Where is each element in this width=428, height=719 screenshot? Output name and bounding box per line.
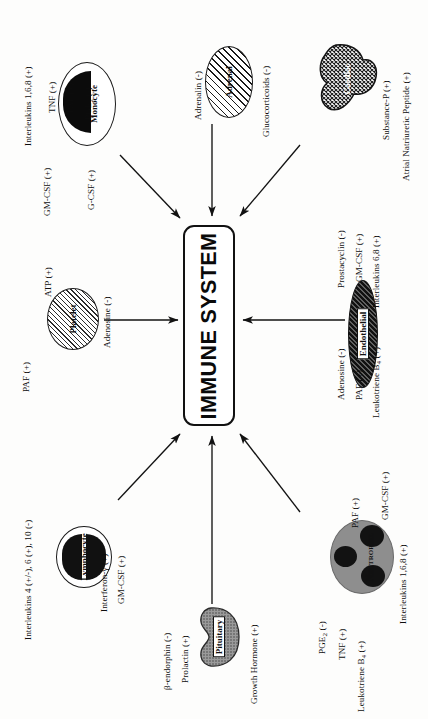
neutrophil-label-tnf: TNF (+) — [338, 629, 347, 660]
endothelial-label-adenosine: Adenosine (-) — [337, 348, 346, 400]
neutrophil-label-ltb4: Leukotriene B4 (+) — [357, 641, 368, 712]
adrenal-figure: Adrenal — [205, 46, 253, 118]
adrenal-name: Adrenal — [224, 66, 234, 97]
neutrophil-name: Neutrophil — [365, 533, 375, 582]
cardiac-figure: Cardiac — [316, 42, 378, 116]
pituitary-figure: Pituitary — [197, 606, 241, 668]
platelet-label-adenosine: Adenosine (-) — [103, 296, 112, 348]
arrow-neutrophil — [240, 434, 300, 512]
arrow-cardiac — [240, 145, 300, 216]
endothelial-label-prostacyclin: Prostacyclin (-) — [337, 230, 346, 288]
lymphocyte-label-gmcsf: GM-CSF (+) — [117, 556, 126, 604]
cardiac-name: Cardiac — [342, 64, 352, 95]
pituitary-label-prolactin: Prolactin (+) — [181, 635, 190, 683]
neutrophil-figure: Neutrophil — [330, 520, 394, 594]
monocyte-label-tnf: TNF (+) — [48, 82, 57, 113]
monocyte-label-paf: PAF (+) — [66, 83, 75, 113]
platelet-label-paf: PAF (+) — [22, 362, 31, 392]
arrow-monocyte — [120, 155, 180, 218]
neutrophil-lobe-2 — [334, 546, 357, 567]
endothelial-label-ltb4: Leukotriene B4 (+) — [372, 347, 383, 418]
monocyte-label-interleukins: Interleukins 1,6,8 (+) — [24, 66, 33, 146]
monocyte-label-gcsf: G-CSF (+) — [87, 170, 96, 210]
neutrophil-label-paf: PAF (+) — [351, 498, 360, 528]
lymphocyte-label-interferon: Interferon-γ (+) — [100, 554, 109, 612]
neutrophil-label-interleukins: Interleukins 1,6,8 (+) — [399, 544, 408, 624]
platelet-label-atp: ATP (+) — [44, 267, 53, 297]
pituitary-name: Pituitary — [213, 617, 225, 658]
pituitary-label-growth-hormone: Growth Hormone (+) — [250, 624, 259, 704]
endothelial-label-interleukins: Interleukins 6,8 (+) — [372, 235, 381, 308]
monocyte-label-pge2: PGE2 (-) — [84, 87, 95, 120]
lymphocyte-name: Lymphocyte — [79, 533, 89, 581]
platelet-figure: Platelet — [47, 288, 99, 350]
pituitary-label-bendorphin: β-endorphin (-) — [163, 633, 172, 690]
diagram-canvas: IMMUNE SYSTEM Monocyte Interleukins 1,6,… — [0, 0, 428, 719]
neutrophil-label-gmcsf: GM-CSF (+) — [381, 472, 390, 520]
cardiac-label-substance-p: Substance-P (+) — [382, 80, 391, 140]
endothelial-label-gmcsf: GM-CSF (+) — [355, 234, 364, 282]
cardiac-label-anp: Atrial Natriuretic Peptide (+) — [402, 72, 411, 181]
adrenal-label-adrenalin: Adrenalin (-) — [194, 71, 203, 120]
arrow-lymphocyte — [118, 434, 180, 500]
adrenal-label-glucocorticoids: Glucocorticoids (-) — [262, 66, 271, 137]
endothelial-name: Endothelial — [357, 309, 369, 360]
lymphocyte-label-interleukins: Interleukins 4 (+/-), 6 (+), 10 (-) — [24, 520, 33, 640]
platelet-name: Platelet — [68, 305, 78, 334]
neutrophil-label-pge2: PGE2 (-) — [318, 621, 329, 654]
immune-system-node: IMMUNE SYSTEM — [183, 225, 235, 426]
endothelial-label-paf: PAF (+) — [355, 370, 364, 400]
monocyte-label-gmcsf: GM-CSF (+) — [43, 168, 52, 216]
immune-system-label: IMMUNE SYSTEM — [197, 232, 222, 419]
